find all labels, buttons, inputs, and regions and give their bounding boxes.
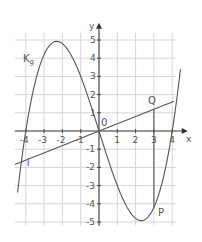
y-tick-label: 3 <box>90 71 96 81</box>
x-tick-label: -3 <box>38 135 47 145</box>
line-label-i: i <box>27 157 30 168</box>
curve-label-kg: Kg <box>23 53 34 66</box>
x-tick-label: -2 <box>56 135 65 145</box>
function-graph: xy -4-3-2-1123454321-1-2-3-4-5 KgiQP0 <box>0 0 202 242</box>
y-tick-label: -1 <box>86 144 95 154</box>
y-axis-label: y <box>89 21 95 31</box>
x-axis-label: x <box>186 134 192 144</box>
y-tick-label: -4 <box>86 199 95 209</box>
x-tick-label: 1 <box>114 135 120 145</box>
y-tick-label: 5 <box>90 35 96 45</box>
point-label-p: P <box>158 207 164 218</box>
y-tick-label: 2 <box>90 90 96 100</box>
y-tick-label: 4 <box>90 53 96 63</box>
point-label-q: Q <box>148 95 156 106</box>
y-tick-label: -2 <box>86 162 95 172</box>
y-tick-label: -3 <box>86 181 95 191</box>
origin-label: 0 <box>101 117 107 128</box>
y-tick-label: -5 <box>86 217 95 227</box>
y-axis-arrow-icon <box>96 23 102 29</box>
x-tick-label: 2 <box>133 135 139 145</box>
